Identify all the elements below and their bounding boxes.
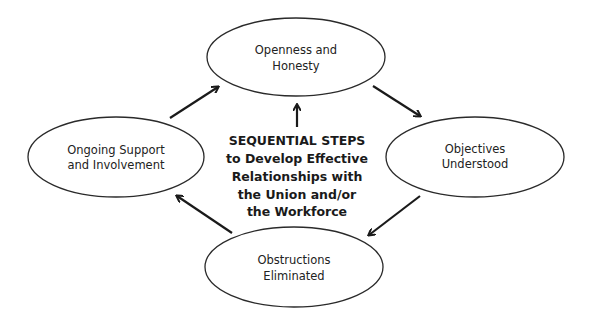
node-label-line: Openness and	[255, 43, 337, 57]
node-label-line: Eliminated	[263, 269, 324, 283]
arrow-icon-objectives-to-obstructions	[369, 196, 420, 235]
node-ellipse	[205, 227, 383, 307]
node-label-line: Objectives	[445, 142, 506, 156]
center-title: SEQUENTIAL STEPS to Develop Effective Re…	[226, 133, 368, 219]
center-title-line: the Workforce	[247, 204, 347, 219]
center-title-line: SEQUENTIAL STEPS	[229, 133, 366, 148]
cycle-diagram: Openness and Honesty Objectives Understo…	[0, 0, 592, 321]
node-label-line: and Involvement	[68, 158, 165, 172]
node-label-line: Obstructions	[257, 253, 330, 267]
node-openness-honesty: Openness and Honesty	[207, 18, 385, 96]
arrow-icon-obstructions-to-ongoing	[177, 196, 232, 233]
node-label-line: Ongoing Support	[67, 143, 165, 157]
node-ellipse	[207, 18, 385, 96]
node-ongoing-support: Ongoing Support and Involvement	[28, 117, 204, 197]
center-title-line: to Develop Effective	[226, 151, 368, 166]
arrow-icon-ongoing-to-openness	[170, 87, 218, 118]
center-title-line: Relationships with	[232, 169, 363, 184]
node-label-line: Understood	[442, 157, 509, 171]
node-obstructions-eliminated: Obstructions Eliminated	[205, 227, 383, 307]
center-title-line: the Union and/or	[238, 187, 357, 202]
arrow-icon-openness-to-objectives	[373, 86, 420, 116]
node-ellipse	[28, 117, 204, 197]
node-label-line: Honesty	[272, 59, 320, 73]
node-objectives-understood: Objectives Understood	[386, 117, 564, 197]
